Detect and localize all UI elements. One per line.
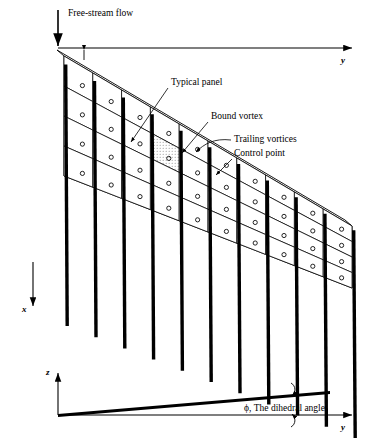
bound-vortex-label: Bound vortex bbox=[211, 111, 263, 121]
freestream-flow-label: Free-stream flow bbox=[68, 8, 133, 18]
wing-lattice bbox=[57, 50, 357, 438]
planform-view: Free-stream flow y x Λ LE Typical panel … bbox=[21, 8, 357, 438]
typical-panel-label: Typical panel bbox=[171, 77, 223, 87]
dihedral-view: z y ϕ, The dihedral angle bbox=[45, 367, 352, 432]
y-axis-top-label: y bbox=[340, 55, 346, 65]
x-axis-label: x bbox=[21, 304, 27, 314]
y-axis-bottom-label: y bbox=[340, 422, 346, 432]
figure-canvas: Free-stream flow y x Λ LE Typical panel … bbox=[0, 0, 370, 440]
trailing-vortex-ribbon bbox=[352, 230, 357, 438]
control-point-label: Control point bbox=[234, 148, 285, 158]
z-axis-label: z bbox=[45, 367, 50, 377]
dihedral-angle-label: ϕ, The dihedral angle bbox=[244, 403, 325, 413]
trailing-vortices-label: Trailing vortices bbox=[234, 134, 297, 144]
vortex-lattice-figure: Free-stream flow y x Λ LE Typical panel … bbox=[0, 0, 370, 440]
dihedral-arc-lower bbox=[291, 414, 295, 427]
